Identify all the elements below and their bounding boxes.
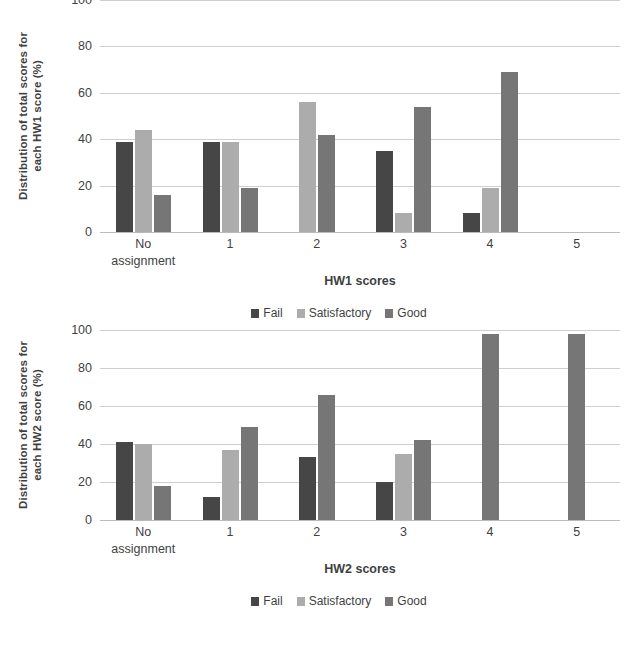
y-tick-label: 80: [78, 361, 92, 375]
legend-hw1: FailSatisfactoryGood: [0, 306, 638, 320]
legend-item-fail: Fail: [251, 594, 282, 608]
bar-satisfactory: [395, 213, 412, 232]
y-axis-labels-hw1: 020406080100: [56, 0, 96, 232]
y-tick-label: 20: [78, 475, 92, 489]
bar-good: [318, 395, 335, 520]
bar-group: [187, 0, 274, 232]
bar-satisfactory: [135, 130, 152, 232]
x-tick-label: 2: [273, 232, 360, 272]
y-axis-title-hw1: Distribution of total scores for each HW…: [0, 0, 60, 232]
y-tick-label: 0: [85, 513, 92, 527]
bar-group: [187, 330, 274, 520]
x-axis-labels-hw1: Noassignment12345: [100, 232, 620, 272]
bar-group: [360, 330, 447, 520]
bar-group: [447, 330, 534, 520]
bars-region-hw1: [100, 0, 620, 232]
legend-swatch-icon: [385, 309, 393, 318]
bar-good: [568, 334, 585, 520]
legend-swatch-icon: [251, 597, 259, 606]
bar-satisfactory: [482, 188, 499, 232]
y-tick-label: 100: [71, 0, 92, 7]
bar-fail: [299, 457, 316, 520]
legend-item-satisfactory: Satisfactory: [297, 594, 372, 608]
legend-label: Satisfactory: [309, 594, 372, 608]
bar-good: [414, 107, 431, 232]
y-tick-label: 40: [78, 437, 92, 451]
legend-item-satisfactory: Satisfactory: [297, 306, 372, 320]
legend-label: Fail: [263, 306, 282, 320]
x-tick-label: 2: [273, 520, 360, 560]
plot-area-hw1: Distribution of total scores for each HW…: [0, 0, 638, 232]
bar-group: [273, 330, 360, 520]
bar-fail: [203, 497, 220, 520]
legend-swatch-icon: [385, 597, 393, 606]
x-tick-label: Noassignment: [100, 520, 187, 560]
bars-region-hw2: [100, 330, 620, 520]
y-axis-labels-hw2: 020406080100: [56, 330, 96, 520]
bar-good: [501, 72, 518, 232]
legend-swatch-icon: [297, 597, 305, 606]
bar-groups-hw2: [100, 330, 620, 520]
x-axis-title-hw1: HW1 scores: [0, 274, 638, 288]
bar-good: [318, 135, 335, 232]
legend-item-good: Good: [385, 594, 426, 608]
bar-satisfactory: [222, 450, 239, 520]
bar-group: [533, 330, 620, 520]
y-tick-label: 100: [71, 323, 92, 337]
x-tick-label: 4: [447, 232, 534, 272]
bar-fail: [116, 142, 133, 232]
x-tick-label: 4: [447, 520, 534, 560]
bar-group: [273, 0, 360, 232]
x-tick-label: 5: [533, 520, 620, 560]
legend-swatch-icon: [297, 309, 305, 318]
legend-swatch-icon: [251, 309, 259, 318]
y-tick-label: 0: [85, 225, 92, 239]
legend-item-fail: Fail: [251, 306, 282, 320]
bar-fail: [116, 442, 133, 520]
bar-good: [154, 195, 171, 232]
y-tick-label: 60: [78, 86, 92, 100]
y-axis-title-line1: Distribution of total scores for: [16, 341, 30, 509]
legend-label: Good: [397, 306, 426, 320]
y-axis-title-line2: each HW1 score (%): [30, 32, 44, 200]
bar-good: [414, 440, 431, 520]
x-tick-label: 5: [533, 232, 620, 272]
bar-satisfactory: [299, 102, 316, 232]
bar-satisfactory: [395, 454, 412, 521]
bar-group: [360, 0, 447, 232]
y-axis-title-hw2: Distribution of total scores for each HW…: [0, 330, 60, 520]
bar-good: [241, 427, 258, 520]
y-tick-label: 60: [78, 399, 92, 413]
chart-hw1: Distribution of total scores for each HW…: [0, 0, 638, 330]
bar-group: [100, 330, 187, 520]
bar-fail: [203, 142, 220, 232]
y-tick-label: 20: [78, 179, 92, 193]
legend-hw2: FailSatisfactoryGood: [0, 594, 638, 608]
y-axis-title-line2: each HW2 score (%): [30, 341, 44, 509]
chart-hw2: Distribution of total scores for each HW…: [0, 330, 638, 665]
legend-label: Fail: [263, 594, 282, 608]
x-tick-label: 1: [187, 232, 274, 272]
bar-groups-hw1: [100, 0, 620, 232]
legend-label: Good: [397, 594, 426, 608]
bar-group: [100, 0, 187, 232]
y-tick-label: 40: [78, 132, 92, 146]
x-axis-title-hw2: HW2 scores: [0, 562, 638, 576]
bar-good: [482, 334, 499, 520]
plot-area-hw2: Distribution of total scores for each HW…: [0, 330, 638, 520]
x-tick-label: 1: [187, 520, 274, 560]
bar-good: [154, 486, 171, 520]
legend-item-good: Good: [385, 306, 426, 320]
bar-group: [447, 0, 534, 232]
bar-satisfactory: [222, 142, 239, 232]
y-tick-label: 80: [78, 39, 92, 53]
x-tick-label: Noassignment: [100, 232, 187, 272]
y-axis-title-line1: Distribution of total scores for: [16, 32, 30, 200]
x-tick-label: 3: [360, 232, 447, 272]
bar-satisfactory: [135, 444, 152, 520]
x-axis-labels-hw2: Noassignment12345: [100, 520, 620, 560]
bar-fail: [463, 213, 480, 232]
bar-good: [241, 188, 258, 232]
bar-fail: [376, 482, 393, 520]
legend-label: Satisfactory: [309, 306, 372, 320]
